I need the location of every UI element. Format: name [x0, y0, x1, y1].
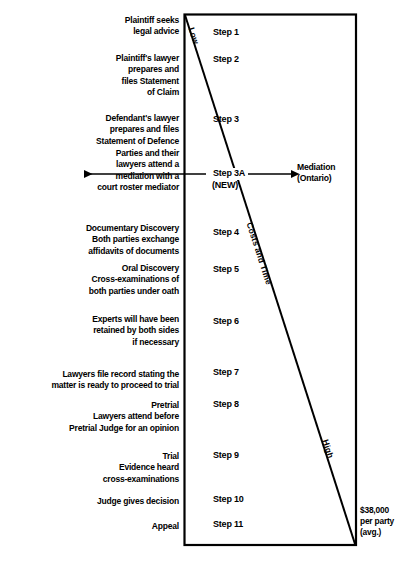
- step-label-step-6: Step 6: [213, 316, 239, 328]
- step-label-step-10: Step 10: [213, 494, 244, 506]
- step-label-step-7: Step 7: [213, 367, 239, 379]
- step-label-step-9: Step 9: [213, 450, 239, 462]
- step-label-step-11: Step 11: [213, 519, 243, 531]
- step-description-step-6: Experts will have been retained by both …: [92, 314, 179, 348]
- step-label-step-4: Step 4: [213, 227, 239, 239]
- step-description-step-8: Pretrial Lawyers attend before Pretrial …: [69, 400, 179, 434]
- step-description-step-10: Judge gives decision: [97, 496, 179, 507]
- step-label-step-2: Step 2: [213, 54, 239, 66]
- diagram-line-artwork: [0, 0, 407, 566]
- average-cost-note: $38,000 per party (avg.): [360, 505, 394, 538]
- step-description-step-1: Plaintiff seeks legal advice: [125, 15, 179, 38]
- step-label-step-1: Step 1: [213, 27, 239, 39]
- step-description-step-7: Lawyers file record stating the matter i…: [51, 369, 179, 392]
- step-label-step-5: Step 5: [213, 264, 239, 276]
- mediation-ontario-note: Mediation (Ontario): [297, 162, 335, 185]
- step-label-step-3a: Step 3A: [211, 168, 247, 180]
- step-description-step-2: Plaintiff's lawyer prepares and files St…: [116, 53, 179, 98]
- step-description-step-11: Appeal: [152, 521, 179, 532]
- step-description-step-3: Defendant's lawyer prepares and files St…: [96, 113, 179, 147]
- step-description-step-9: Trial Evidence heard cross-examinations: [103, 451, 179, 485]
- step-label-step-3: Step 3: [213, 114, 239, 126]
- diagram-canvas: Low Costs and Time High Plaintiff seeks …: [0, 0, 407, 566]
- step-description-step-3a: Parties and their lawyers attend a media…: [97, 148, 179, 193]
- step-description-step-4: Documentary Discovery Both parties excha…: [86, 223, 179, 257]
- step-label-step-8: Step 8: [213, 399, 239, 411]
- step-sublabel-step-3a-new: (NEW): [212, 180, 238, 192]
- step-description-step-5: Oral Discovery Cross-examinations of bot…: [89, 263, 179, 297]
